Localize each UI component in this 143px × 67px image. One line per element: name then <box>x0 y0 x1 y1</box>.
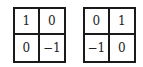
matrix-2-cell-r0c1: 1 <box>110 9 135 35</box>
matrix-2: 0 1 −1 0 <box>83 7 136 63</box>
matrix-2-cell-r0c0: 0 <box>85 9 110 35</box>
matrix-1-cell-r1c0: 0 <box>15 35 40 61</box>
matrix-2-cell-r1c0: −1 <box>85 35 110 61</box>
matrix-1-cell-r0c0: 1 <box>15 9 40 35</box>
matrix-1-cell-r1c1: −1 <box>40 35 65 61</box>
matrix-2-cell-r1c1: 0 <box>110 35 135 61</box>
matrix-1-cell-r0c1: 0 <box>40 9 65 35</box>
matrix-1: 1 0 0 −1 <box>13 7 66 63</box>
